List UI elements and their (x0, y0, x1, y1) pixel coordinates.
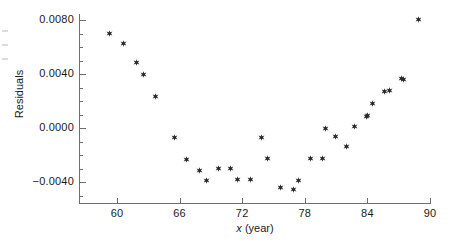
data-point (171, 134, 178, 141)
x-tick-label-72: 72 (212, 207, 272, 219)
data-point (369, 100, 376, 107)
y-axis-line (79, 14, 80, 204)
data-point (247, 176, 254, 183)
data-point (133, 59, 140, 66)
data-point (386, 87, 393, 94)
x-axis-title: x (year) (79, 222, 431, 234)
data-point (322, 125, 329, 132)
data-point (290, 186, 297, 193)
residual-scatter-plot: 606672788490 −0.00400.00000.00400.0080 x… (0, 0, 450, 243)
data-point (351, 123, 358, 130)
data-point (140, 71, 147, 78)
data-point (343, 143, 350, 150)
data-point (400, 76, 407, 83)
y-tick-0 (79, 182, 86, 183)
data-point (295, 177, 302, 184)
data-point (227, 165, 234, 172)
x-tick-label-66: 66 (150, 207, 210, 219)
x-tick-78 (305, 198, 306, 204)
y-minor-tick (79, 34, 83, 35)
x-tick-label-90: 90 (400, 207, 450, 219)
x-tick-label-84: 84 (337, 207, 397, 219)
x-tick-label-78: 78 (275, 207, 335, 219)
y-tick-label-3: 0.0080 (4, 13, 74, 25)
data-point (364, 112, 371, 119)
x-tick-84 (367, 198, 368, 204)
data-point (307, 155, 314, 162)
data-point (152, 93, 159, 100)
y-tick-label-0: −0.0040 (4, 175, 74, 187)
y-minor-tick (79, 88, 83, 89)
y-minor-tick (79, 155, 83, 156)
x-tick-72 (242, 198, 243, 204)
y-tick-2 (79, 74, 86, 75)
data-point (106, 30, 113, 37)
y-minor-tick (79, 142, 83, 143)
y-tick-3 (79, 20, 86, 21)
x-tick-60 (117, 198, 118, 204)
data-point (264, 155, 271, 162)
data-point (258, 134, 265, 141)
y-minor-tick (79, 101, 83, 102)
data-point (215, 165, 222, 172)
x-tick-66 (180, 198, 181, 204)
y-minor-tick (79, 47, 83, 48)
data-point (277, 184, 284, 191)
data-point (183, 156, 190, 163)
y-minor-tick (79, 196, 83, 197)
data-point (381, 88, 388, 95)
y-minor-tick (79, 61, 83, 62)
y-axis-tick-labels: −0.00400.00000.00400.0080 (0, 0, 74, 243)
data-point (120, 40, 127, 47)
data-point (398, 75, 405, 82)
y-minor-tick (79, 169, 83, 170)
y-tick-1 (79, 128, 86, 129)
y-axis-title: Residuals (13, 39, 25, 149)
data-point (332, 133, 339, 140)
x-tick-label-60: 60 (87, 207, 147, 219)
data-point (234, 176, 241, 183)
data-point (319, 155, 326, 162)
x-tick-90 (430, 198, 431, 204)
x-axis-line (79, 203, 431, 204)
data-point (203, 177, 210, 184)
data-point (415, 16, 422, 23)
data-point (196, 167, 203, 174)
data-point (363, 113, 370, 120)
y-minor-tick (79, 115, 83, 116)
